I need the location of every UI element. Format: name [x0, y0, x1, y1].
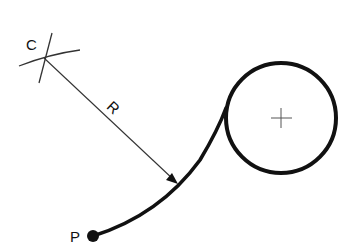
- label-center-c: C: [26, 37, 37, 52]
- label-point-p: P: [70, 229, 80, 244]
- diagram-canvas: C R P: [0, 0, 350, 245]
- radius-line: [44, 58, 174, 180]
- tangent-arc: [93, 108, 226, 236]
- point-p-dot: [87, 230, 99, 242]
- diagram-svg: [0, 0, 350, 245]
